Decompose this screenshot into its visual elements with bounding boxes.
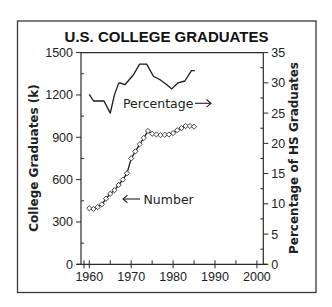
y2-tick-label: 35	[271, 46, 285, 60]
y2-tick-label: 0	[271, 258, 278, 272]
chart-canvas: U.S. COLLEGE GRADUATES 03006009001200150…	[0, 0, 332, 307]
chart-title: U.S. COLLEGE GRADUATES	[65, 28, 269, 45]
x-tick-label: 1970	[117, 270, 145, 284]
y-tick-label: 900	[52, 131, 73, 145]
y2-tick-label: 5	[271, 228, 278, 242]
y2-tick-label: 25	[271, 107, 285, 121]
chart-frame	[18, 21, 317, 293]
number-label: Number	[144, 192, 195, 207]
y-axis-label: College Graduates (k)	[27, 84, 41, 232]
y-tick-label: 600	[52, 173, 73, 187]
y2-tick-label: 20	[271, 137, 285, 151]
y-tick-label: 1200	[45, 88, 73, 102]
y-tick-label: 300	[52, 215, 73, 229]
x-tick-label: 1980	[159, 270, 187, 284]
percentage-label: Percentage	[123, 96, 194, 111]
y2-tick-label: 10	[271, 197, 285, 211]
y2-tick-label: 30	[271, 76, 285, 90]
y-tick-label: 0	[66, 258, 73, 272]
y2-tick-label: 15	[271, 167, 285, 181]
y-tick-label: 1500	[45, 46, 73, 60]
y2-axis-label: Percentage of HS Graduates	[287, 62, 301, 254]
x-tick-label: 1960	[75, 270, 103, 284]
x-tick-label: 2000	[243, 270, 271, 284]
x-tick-label: 1990	[201, 270, 229, 284]
